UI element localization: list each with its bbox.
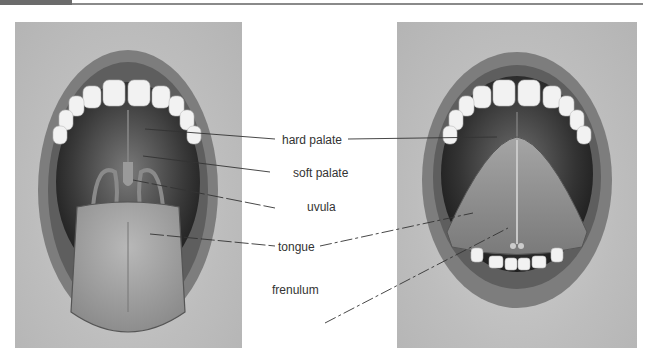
- header-rule: [72, 3, 643, 5]
- mouth-illustration-tongue-out: [15, 22, 242, 348]
- header-block: [0, 0, 72, 5]
- label-uvula: uvula: [307, 200, 336, 214]
- mouth-open-icon: [15, 22, 242, 348]
- label-soft-palate: soft palate: [293, 166, 348, 180]
- mouth-open-tongue-raised-icon: [397, 22, 637, 348]
- label-tongue: tongue: [278, 240, 315, 254]
- label-frenulum: frenulum: [272, 283, 319, 297]
- mouth-illustration-tongue-up: [397, 22, 637, 348]
- label-hard-palate: hard palate: [282, 133, 342, 147]
